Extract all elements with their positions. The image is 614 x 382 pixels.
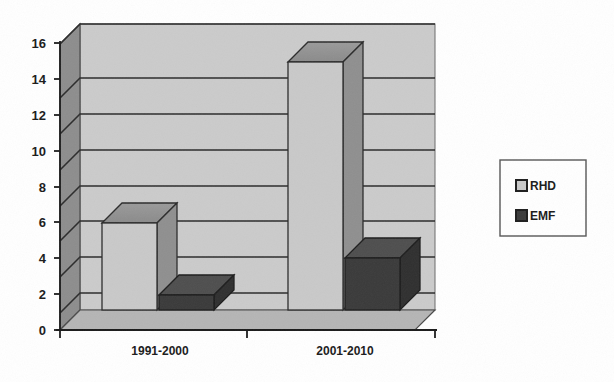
chart-container: 16 14 12 10 8 6 4 2 0 1991-2000 2001-201… xyxy=(0,0,614,382)
scan-grain-overlay xyxy=(0,0,614,382)
bar-chart-3d: 16 14 12 10 8 6 4 2 0 1991-2000 2001-201… xyxy=(0,0,614,382)
